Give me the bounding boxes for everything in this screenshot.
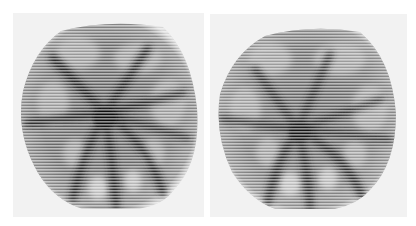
scan-image-right xyxy=(210,14,407,217)
scan-image-left xyxy=(13,13,204,217)
scan-panel-left xyxy=(13,13,204,217)
scan-figure xyxy=(0,0,416,226)
scan-panel-right xyxy=(210,14,407,217)
